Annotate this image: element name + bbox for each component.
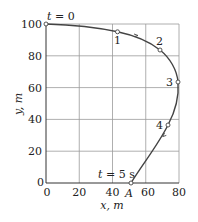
x-tick-labels: 0 20 40 60 80 xyxy=(44,186,187,199)
label-t0: t = 0 xyxy=(47,10,75,23)
x-tick-20: 20 xyxy=(72,186,86,199)
label-point-1: 1 xyxy=(114,34,121,47)
y-tick-40: 40 xyxy=(28,113,42,126)
point-A xyxy=(129,181,133,185)
y-tick-60: 60 xyxy=(28,82,42,95)
x-tick-60: 60 xyxy=(141,186,155,199)
y-axis-label: y, m xyxy=(12,93,25,116)
x-axis-label: x, m xyxy=(100,199,124,212)
label-point-4: 4 xyxy=(156,119,163,132)
arrow-icon xyxy=(134,34,138,37)
y-tick-80: 80 xyxy=(28,50,42,63)
label-point-A: A xyxy=(124,187,133,200)
y-tick-100: 100 xyxy=(21,18,42,31)
x-tick-80: 80 xyxy=(172,186,186,199)
label-point-3: 3 xyxy=(166,76,173,89)
x-tick-40: 40 xyxy=(106,186,120,199)
x-tick-0: 0 xyxy=(44,186,51,199)
point-4 xyxy=(166,123,170,127)
point-3 xyxy=(176,80,180,84)
y-tick-20: 20 xyxy=(28,145,42,158)
annotations: t = 0 1 2 3 4 t = 5 s A xyxy=(47,10,173,200)
label-point-2: 2 xyxy=(156,35,163,48)
label-t5: t = 5 s xyxy=(98,168,135,181)
trajectory-chart: 100 80 60 40 20 0 0 20 40 60 80 x, m y, … xyxy=(0,0,198,222)
point-2 xyxy=(158,48,162,52)
